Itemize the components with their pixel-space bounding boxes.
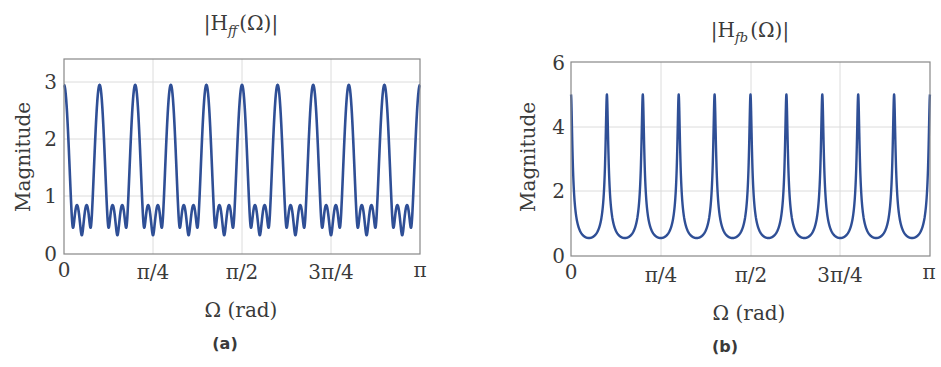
panel-b: |Hfb(Ω)| 0 2 4 6 0 π/4 π/2 3π/4 π Ω (rad… xyxy=(470,0,941,367)
panel-caption-a: (a) xyxy=(212,334,237,353)
svg-text:2: 2 xyxy=(44,127,57,151)
svg-text:π/2: π/2 xyxy=(735,263,768,287)
svg-text:π/2: π/2 xyxy=(226,260,259,284)
svg-text:0: 0 xyxy=(565,260,578,284)
svg-text:0: 0 xyxy=(44,242,57,266)
grid-b xyxy=(571,62,930,256)
svg-text:2: 2 xyxy=(552,179,565,203)
y-ticks-a: 0 1 2 3 xyxy=(44,70,57,266)
svg-text:1: 1 xyxy=(44,184,57,208)
svg-text:π/4: π/4 xyxy=(645,263,678,287)
svg-text:3π/4: 3π/4 xyxy=(817,263,862,287)
svg-text:6: 6 xyxy=(552,51,565,75)
panel-a: |Hff(Ω)| 0 1 2 3 0 π/4 π/2 3π/4 π Ω (rad… xyxy=(0,0,470,367)
chart-title-a: |Hff(Ω)| xyxy=(204,11,278,38)
svg-text:π: π xyxy=(922,260,935,284)
svg-text:4: 4 xyxy=(552,115,565,139)
x-axis-label-b: Ω (rad) xyxy=(713,301,786,325)
y-axis-label-a: Magnitude xyxy=(11,102,35,212)
svg-text:0: 0 xyxy=(58,258,71,282)
panel-caption-b: (b) xyxy=(712,337,738,356)
svg-text:π/4: π/4 xyxy=(137,260,170,284)
x-ticks-a: 0 π/4 π/2 3π/4 π xyxy=(58,258,427,284)
chart-title-b: |Hfb(Ω)| xyxy=(711,18,789,45)
svg-text:3π/4: 3π/4 xyxy=(308,260,353,284)
svg-text:3: 3 xyxy=(44,70,57,94)
svg-text:π: π xyxy=(413,258,426,282)
x-axis-label-a: Ω (rad) xyxy=(205,298,278,322)
y-axis-label-b: Magnitude xyxy=(516,102,540,212)
svg-text:0: 0 xyxy=(552,244,565,268)
x-ticks-b: 0 π/4 π/2 3π/4 π xyxy=(565,260,936,287)
y-ticks-b: 0 2 4 6 xyxy=(552,51,565,268)
